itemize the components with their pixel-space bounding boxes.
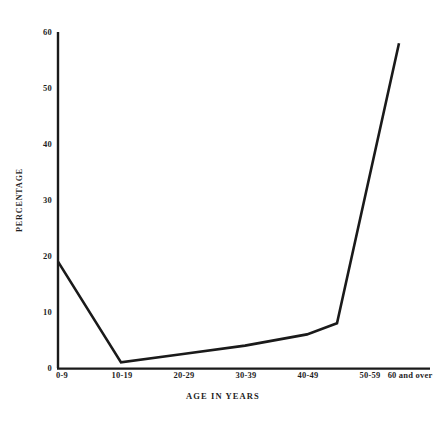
x-tick-20-29: 20-29 [174,371,195,380]
data-series-line [58,43,399,362]
x-axis-tick-labels: 0-9 10-19 20-29 30-39 40-49 50-59 60 and… [0,371,446,387]
x-axis-title: AGE IN YEARS [0,392,446,401]
y-axis-title-wrapper: PERCENTAGE [13,150,27,250]
y-tick-50: 50 [22,84,52,93]
x-tick-60-and-over: 60 and over [388,371,433,380]
y-tick-40: 40 [22,140,52,149]
y-tick-20: 20 [22,252,52,261]
y-axis-title: PERCENTAGE [16,168,24,232]
x-tick-0-9: 0-9 [56,371,68,380]
x-tick-40-49: 40-49 [298,371,319,380]
x-tick-50-59: 50-59 [360,371,381,380]
chart-plot-area [0,0,446,421]
y-tick-60: 60 [22,28,52,37]
x-tick-30-39: 30-39 [236,371,257,380]
x-tick-10-19: 10-19 [112,371,133,380]
line-chart-figure: 60 50 40 30 20 10 0 0-9 10-19 20-29 30-3… [0,0,446,421]
y-tick-10: 10 [22,308,52,317]
